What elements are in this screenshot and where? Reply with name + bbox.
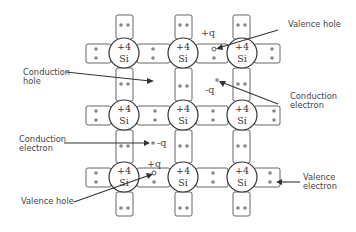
svg-text:+4: +4 — [117, 41, 131, 52]
svg-text:Si: Si — [119, 115, 129, 126]
si-atom: +4 Si — [227, 38, 257, 68]
svg-text:+4: +4 — [176, 103, 190, 114]
svg-text:Si: Si — [237, 177, 247, 188]
svg-text:+4: +4 — [235, 103, 249, 114]
valence-hole-top — [212, 47, 216, 51]
charge-plus-top: +q — [201, 27, 215, 38]
label-conduction-hole-2: hole — [23, 76, 41, 86]
svg-text:+4: +4 — [117, 103, 131, 114]
label-valence-hole-bottom: Valence hole — [21, 196, 74, 206]
si-atom: +4 Si — [168, 100, 198, 130]
svg-text:+4: +4 — [235, 165, 249, 176]
svg-text:Si: Si — [237, 115, 247, 126]
svg-text:+4: +4 — [176, 41, 190, 52]
si-atom: +4 Si — [168, 38, 198, 68]
svg-text:Si: Si — [119, 53, 129, 64]
svg-text:+4: +4 — [176, 165, 190, 176]
si-atom: +4 Si — [227, 100, 257, 130]
si-atom: +4 Si — [168, 162, 198, 192]
silicon-lattice-diagram: +4 Si +4 Si +4 Si +4 Si +4 Si +4 Si — [0, 0, 356, 232]
label-conduction-electron-right-2: electron — [290, 100, 324, 110]
conduction-electron-left — [151, 141, 155, 145]
svg-text:Si: Si — [237, 53, 247, 64]
charge-plus-bottom: +q — [147, 158, 161, 169]
label-valence-hole-top: Valence hole — [288, 19, 341, 29]
label-conduction-electron-left-2: electron — [19, 143, 53, 153]
si-atom: +4 Si — [109, 100, 139, 130]
conduction-electron-free — [215, 78, 219, 82]
charge-minus-left: -q — [157, 137, 166, 148]
label-valence-electron-2: electron — [303, 181, 337, 191]
si-atom: +4 Si — [227, 162, 257, 192]
charge-minus-center: -q — [205, 84, 214, 95]
svg-text:Si: Si — [178, 177, 188, 188]
svg-text:Si: Si — [178, 53, 188, 64]
svg-text:Si: Si — [178, 115, 188, 126]
silicon-atoms: +4 Si +4 Si +4 Si +4 Si +4 Si +4 Si — [109, 38, 257, 192]
svg-text:+4: +4 — [117, 165, 131, 176]
si-atom: +4 Si — [109, 38, 139, 68]
